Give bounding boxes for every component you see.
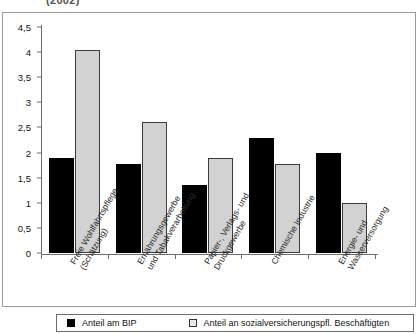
y-tick-label: 3,5	[18, 72, 31, 83]
y-tick-label: 4,5	[18, 22, 31, 33]
x-tick-mark	[41, 254, 42, 259]
y-tick-label: 0	[26, 248, 31, 259]
y-tick-label: 0,5	[18, 222, 31, 233]
y-tick-label: 2	[26, 147, 31, 158]
bar	[316, 153, 341, 253]
x-tick-mark	[241, 254, 242, 259]
gray-square-icon	[189, 319, 197, 327]
legend-item[interactable]: Anteil am BIP	[67, 318, 137, 328]
chart-title: (2002)	[46, 0, 80, 6]
bar	[249, 138, 274, 254]
y-tick-label: 1,5	[18, 172, 31, 183]
legend-item-label: Anteil an sozialversicherungspfl. Beschä…	[204, 318, 390, 328]
x-tick-mark	[375, 254, 376, 259]
bar	[49, 158, 74, 253]
x-tick-mark	[108, 254, 109, 259]
y-tick-label: 3	[26, 97, 31, 108]
y-tick-label: 1	[26, 197, 31, 208]
x-tick-mark	[175, 254, 176, 259]
y-tick-label: 2,5	[18, 122, 31, 133]
y-tick-label: 4	[26, 47, 31, 58]
chart-legend: Anteil am BIPAnteil an sozialversicherun…	[56, 314, 414, 332]
x-tick-mark	[308, 254, 309, 259]
black-square-icon	[67, 319, 75, 327]
plot-frame: 4,543,532,521,510,50 Freie Wohlfahrtspfl…	[2, 12, 416, 307]
legend-item-label: Anteil am BIP	[82, 318, 137, 328]
legend-item[interactable]: Anteil an sozialversicherungspfl. Beschä…	[189, 318, 390, 328]
